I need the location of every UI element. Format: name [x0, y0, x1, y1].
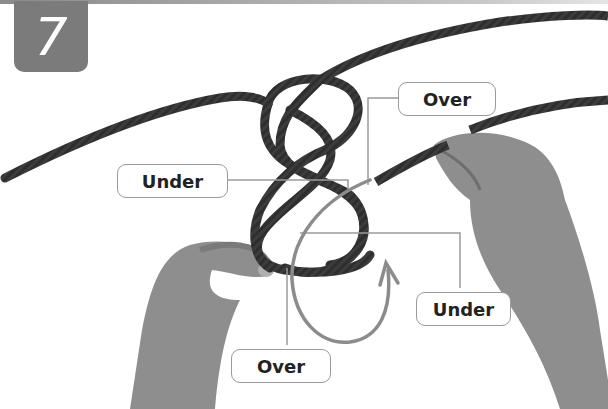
label-over-top: Over: [398, 82, 496, 116]
label-under-right: Under: [416, 292, 511, 326]
knot-illustration: [0, 0, 608, 409]
label-under-left: Under: [117, 164, 228, 198]
label-over-bottom: Over: [231, 349, 331, 383]
left-hand: [130, 241, 274, 409]
rope-top-right-end: [320, 15, 608, 80]
knot-body: [255, 79, 370, 273]
